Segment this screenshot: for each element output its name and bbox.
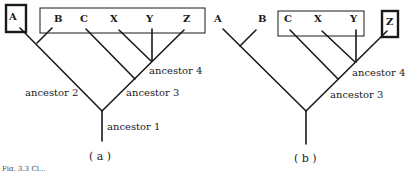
node-label-ancestor-4: ancestor 4	[149, 65, 202, 76]
node-label-ancestor-4: ancestor 4	[352, 67, 405, 78]
branch-c	[290, 30, 338, 79]
branch-b	[37, 28, 52, 43]
phylogeny-diagram: A B C X Y Z ancestor 4 ancestor 3 ancest…	[0, 0, 409, 171]
tip-label-x: X	[110, 13, 118, 24]
branch-b	[240, 30, 256, 46]
tip-label-a: A	[8, 11, 17, 22]
figure-caption: Fig. 3.3 Cl...	[2, 165, 46, 171]
node-label-ancestor-2: ancestor 2	[25, 87, 78, 98]
node-label-ancestor-3: ancestor 3	[126, 87, 179, 98]
tree-a: A B C X Y Z ancestor 4 ancestor 3 ancest…	[6, 5, 205, 163]
branch-a	[20, 28, 102, 111]
tip-label-z: Z	[386, 16, 393, 27]
node-label-ancestor-1: ancestor 1	[107, 121, 160, 132]
tip-label-b: B	[258, 13, 266, 24]
tip-label-y: Y	[349, 13, 358, 24]
branch-a	[223, 29, 306, 111]
group-box-bcxyz	[40, 8, 205, 33]
tree-b: A B C X Y Z ancestor 4 ancestor 3 ( b )	[213, 11, 405, 165]
tip-label-b: B	[54, 13, 62, 24]
caption-b: ( b )	[294, 152, 317, 165]
branch-x	[119, 30, 151, 61]
node-label-ancestor-3: ancestor 3	[330, 89, 383, 100]
tip-label-a: A	[213, 13, 222, 24]
tip-label-c: C	[284, 13, 292, 24]
caption-a: ( a )	[89, 150, 111, 163]
tip-label-z: Z	[183, 13, 190, 24]
tip-label-y: Y	[145, 13, 154, 24]
branch-c	[86, 29, 135, 79]
tip-label-c: C	[80, 13, 88, 24]
tip-label-x: X	[314, 13, 322, 24]
